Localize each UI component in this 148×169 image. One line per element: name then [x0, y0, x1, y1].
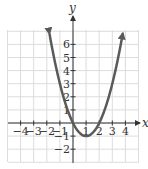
axes: [8, 16, 140, 163]
x-axis-label: x: [142, 116, 148, 130]
y-tick-label: 6: [63, 38, 70, 51]
y-axis-label: y: [68, 1, 76, 15]
y-tick-label: 3: [63, 78, 70, 91]
y-tick-label: 5: [63, 52, 70, 65]
y-tick-label: −2: [54, 143, 70, 156]
parabola-graph: −4−3−2−11234−2−1123456 x y: [0, 0, 148, 169]
y-tick-label: −1: [54, 130, 70, 143]
y-tick-label: 4: [63, 65, 70, 78]
x-tick-label: 3: [109, 125, 116, 138]
x-tick-label: 4: [122, 125, 129, 138]
